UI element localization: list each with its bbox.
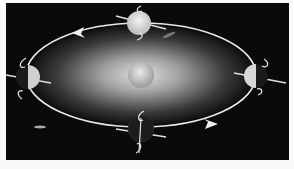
orbit-diagram: [6, 3, 289, 160]
orbit-illustration: [6, 3, 289, 160]
sun: [128, 62, 154, 88]
orbit-arrow-icon: [204, 119, 218, 129]
faint-streak: [34, 126, 46, 129]
